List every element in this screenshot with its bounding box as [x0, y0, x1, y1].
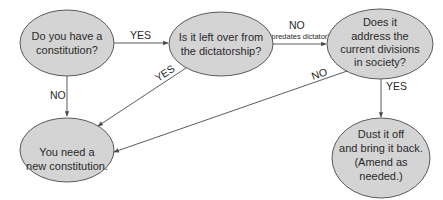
- edge-leftover-to-neednew: YES: [98, 62, 186, 126]
- edge-label-no: NO: [289, 19, 305, 31]
- svg-text:the dictatorship?: the dictatorship?: [181, 45, 262, 57]
- edge-address-to-dust: YES: [381, 79, 407, 117]
- edge-have-to-neednew: NO: [50, 76, 67, 116]
- node-dust-off: Dust it off and bring it back. (Amend as…: [332, 118, 430, 198]
- svg-text:constitution?: constitution?: [36, 44, 98, 56]
- edge-label-yes: YES: [130, 29, 151, 41]
- svg-text:address the: address the: [351, 30, 408, 42]
- flowchart: YES NO YES NO (predates dictator) NO YES…: [0, 0, 443, 200]
- edge-leftover-to-address: NO (predates dictator): [269, 19, 330, 44]
- edge-label-yes: YES: [386, 80, 407, 92]
- svg-text:current divisions: current divisions: [340, 43, 420, 55]
- svg-text:Dust it off: Dust it off: [358, 128, 405, 140]
- svg-text:Does it: Does it: [363, 16, 397, 28]
- svg-text:new constitution.: new constitution.: [26, 160, 108, 172]
- edge-sublabel: (predates dictator): [269, 32, 330, 41]
- edge-have-to-leftover: YES: [114, 29, 168, 43]
- node-have-constitution: Do you have a constitution?: [20, 10, 114, 76]
- svg-text:Do you have a: Do you have a: [32, 30, 104, 42]
- svg-text:needed.): needed.): [359, 170, 402, 182]
- edge-label-no: NO: [310, 65, 329, 81]
- edge-address-to-neednew: NO: [114, 65, 350, 152]
- edge-label-no: NO: [50, 89, 66, 101]
- node-left-over: Is it left over from the dictatorship?: [169, 12, 273, 76]
- svg-text:in society?: in society?: [354, 56, 406, 68]
- edge-label-yes: YES: [153, 62, 177, 84]
- svg-text:You need a: You need a: [39, 146, 95, 158]
- svg-text:and bring it back.: and bring it back.: [339, 142, 423, 154]
- svg-text:Is it left over from: Is it left over from: [179, 31, 263, 43]
- node-address-divisions: Does it address the current divisions in…: [327, 9, 433, 79]
- node-need-new: You need a new constitution.: [20, 118, 114, 182]
- svg-text:(Amend as: (Amend as: [354, 156, 408, 168]
